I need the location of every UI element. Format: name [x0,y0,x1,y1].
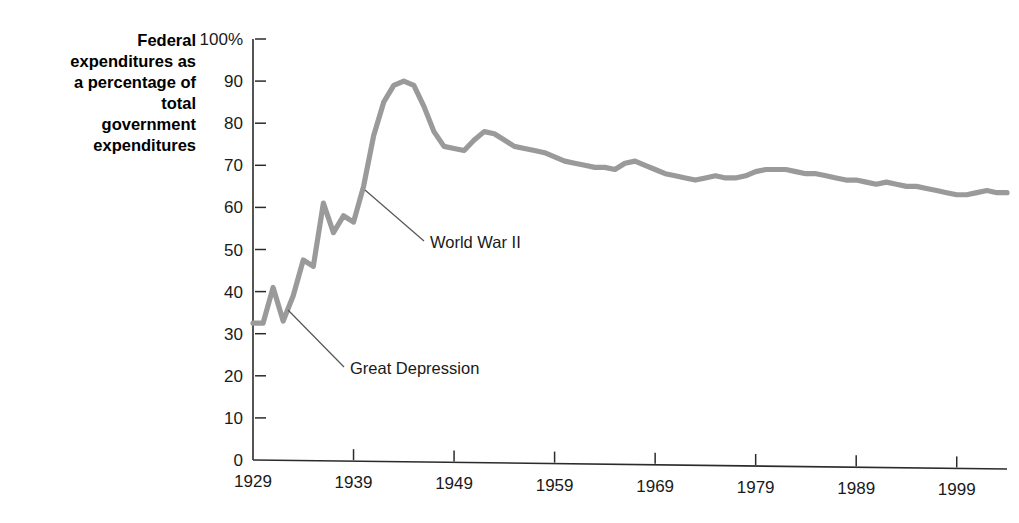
x-tick-label: 1999 [938,480,976,499]
x-axis-line [253,460,1007,469]
y-axis-title-line-4: total [161,94,196,112]
y-axis-title-line-2: expenditures as [70,52,196,70]
data-line-federal-share [253,81,1007,323]
annotation-label: Great Depression [350,359,479,377]
x-tick-label: 1969 [636,477,674,496]
x-axis-ticks: 19291939194919591969197919891999 [234,449,976,499]
annotation-leader-line [288,310,344,367]
y-tick-label: 50 [224,241,243,260]
annotation-label: World War II [430,233,521,251]
y-axis-title-line-3: a percentage of [74,73,196,91]
x-tick-label: 1929 [234,472,272,491]
x-tick-label: 1949 [435,474,473,493]
y-tick-label: 40 [224,283,243,302]
y-axis-ticks: 0102030405060708090100% [200,30,266,470]
y-axis-title-line-5: government [102,115,197,133]
x-tick-label: 1989 [837,479,875,498]
x-tick-label: 1979 [737,478,775,497]
y-tick-label: 0 [234,451,243,470]
y-tick-label: 70 [224,156,243,175]
x-tick-label: 1959 [536,476,574,495]
y-tick-label: 30 [224,325,243,344]
federal-expenditure-share-line-chart: Federal expenditures as a percentage of … [0,0,1019,523]
y-tick-label: 90 [224,72,243,91]
y-axis-title-line-1: Federal [137,31,196,49]
y-tick-label: 20 [224,367,243,386]
chart-container: Federal expenditures as a percentage of … [0,0,1019,523]
y-axis-title-line-6: expenditures [93,136,196,154]
y-axis-title-group: Federal expenditures as a percentage of … [70,31,196,154]
y-tick-label: 100% [200,30,243,49]
y-tick-label: 60 [224,198,243,217]
y-tick-label: 10 [224,409,243,428]
annotation-leader-line [365,190,424,241]
x-tick-label: 1939 [335,473,373,492]
y-tick-label: 80 [224,114,243,133]
